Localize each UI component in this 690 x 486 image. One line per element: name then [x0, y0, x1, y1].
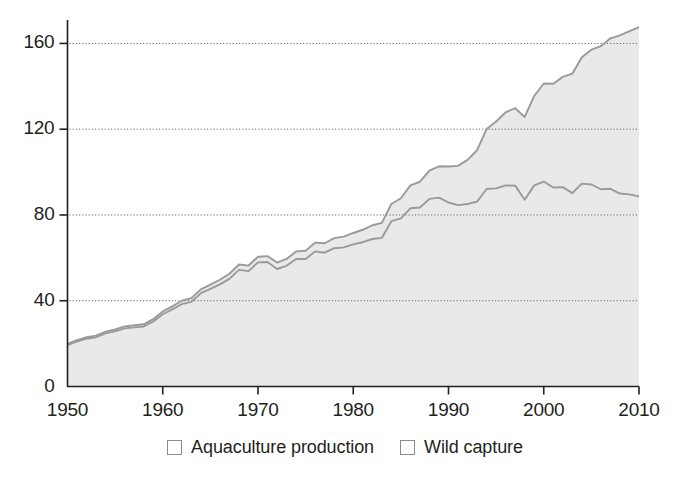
- area-fills: [68, 27, 640, 386]
- x-axis-tick-label: 2000: [504, 399, 584, 421]
- x-axis-tick-label: 2010: [599, 399, 679, 421]
- y-axis-tick-label: 40: [34, 289, 55, 311]
- x-axis-tick-label: 1980: [313, 399, 393, 421]
- legend-item-label: Aquaculture production: [191, 437, 374, 458]
- area-wild-capture: [68, 182, 640, 387]
- chart-legend: Aquaculture production Wild capture: [0, 437, 690, 458]
- y-axis-tick-label: 160: [23, 31, 54, 53]
- x-axis-tick-label: 1970: [218, 399, 298, 421]
- y-axis-tick-label: 120: [23, 117, 54, 139]
- x-axis-tick-label: 1990: [409, 399, 489, 421]
- legend-item-aquaculture-production: Aquaculture production: [167, 437, 374, 458]
- y-axis-tick-label: 0: [44, 375, 54, 397]
- legend-item-label: Wild capture: [424, 437, 523, 458]
- y-axis-tick-label: 80: [34, 203, 55, 225]
- x-axis-tick-label: 1960: [123, 399, 203, 421]
- legend-item-wild-capture: Wild capture: [400, 437, 523, 458]
- legend-swatch-icon: [400, 440, 415, 455]
- x-axis-tick-label: 1950: [28, 399, 108, 421]
- x-axis-ticks: [163, 387, 639, 395]
- legend-swatch-icon: [167, 440, 182, 455]
- chart-figure: 16012080400 1950196019701980199020002010…: [0, 0, 690, 486]
- y-axis-ticks: [60, 43, 68, 300]
